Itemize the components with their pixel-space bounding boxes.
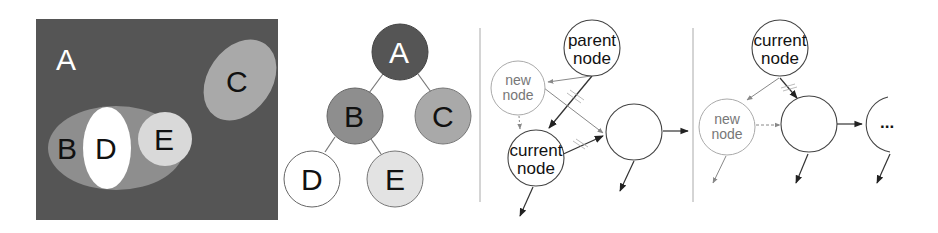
set-diagram-panel: A C B D E bbox=[36, 19, 291, 220]
set-d-label: D bbox=[95, 132, 117, 165]
edge-new-to-current bbox=[519, 116, 520, 129]
tree-node-c-label: C bbox=[432, 100, 454, 133]
cut-mark bbox=[567, 93, 581, 103]
edge-new-down bbox=[713, 156, 726, 183]
set-a-label: A bbox=[56, 43, 76, 76]
set-b-label: B bbox=[57, 132, 77, 165]
insert-panel-b: current node new node ... bbox=[699, 20, 894, 183]
parent-node-label-2: node bbox=[573, 49, 611, 68]
tree-diagram-panel: A B C D E bbox=[284, 24, 471, 207]
new-node-label-2: node bbox=[502, 87, 533, 103]
tree-edge-a-c bbox=[418, 74, 431, 92]
edge-current-down bbox=[520, 187, 533, 216]
edge-new-to-child bbox=[544, 88, 603, 133]
current-node-label-1: current bbox=[510, 141, 563, 160]
tree-node-b-label: B bbox=[344, 100, 364, 133]
tree-node-e-label: E bbox=[385, 163, 405, 196]
tree-edge-b-d bbox=[325, 137, 335, 152]
parent-node-label-1: parent bbox=[568, 31, 616, 50]
new-node-label-2: node bbox=[711, 126, 742, 142]
tree-edge-b-e bbox=[371, 139, 381, 154]
edge-parent-to-new bbox=[548, 76, 591, 82]
child-node bbox=[606, 104, 662, 160]
child-node bbox=[781, 96, 837, 152]
current-node-label-2: node bbox=[761, 49, 799, 68]
diagram-canvas: A C B D E A B C D E bbox=[0, 0, 938, 233]
new-node-label-1: new bbox=[714, 111, 741, 127]
edge-current-to-new bbox=[747, 78, 779, 100]
tree-edge-a-b bbox=[369, 74, 383, 93]
new-node-label-1: new bbox=[505, 72, 532, 88]
cut-mark bbox=[570, 90, 584, 100]
tree-node-a-label: A bbox=[389, 36, 409, 69]
insert-panel-a: parent node new node current node bbox=[491, 20, 688, 216]
set-c-label: C bbox=[226, 65, 248, 98]
tree-node-d-label: D bbox=[301, 163, 323, 196]
current-node-label-2: node bbox=[517, 159, 555, 178]
edge-child-down bbox=[620, 161, 634, 191]
edge-child-down bbox=[796, 154, 808, 183]
edge-cont-down bbox=[877, 154, 890, 183]
continuation-ellipsis: ... bbox=[880, 113, 894, 132]
set-e-label: E bbox=[154, 123, 174, 156]
current-node-label-1: current bbox=[754, 31, 807, 50]
